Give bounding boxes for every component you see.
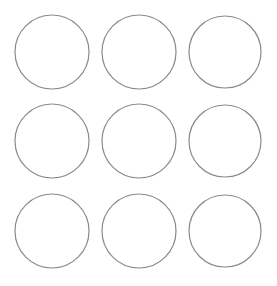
circle-r2-c2 (189, 195, 261, 267)
circle-r0-c2 (189, 16, 261, 88)
circle-r2-c1 (102, 194, 176, 268)
circle-r0-c1 (102, 15, 176, 89)
circle-r1-c0 (15, 104, 89, 178)
circle-r1-c1 (102, 104, 176, 178)
circle-r2-c0 (15, 194, 89, 268)
circle-grid (0, 0, 277, 286)
circle-r0-c0 (15, 15, 89, 89)
circle-r1-c2 (189, 105, 261, 177)
